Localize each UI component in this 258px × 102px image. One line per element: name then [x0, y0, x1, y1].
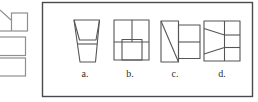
cup-inner-rim — [74, 20, 100, 40]
cup-outline — [74, 20, 100, 62]
figure-artwork — [0, 0, 258, 102]
upper-diagonal — [204, 29, 225, 36]
option-c-figure[interactable] — [161, 21, 200, 62]
square-outline — [204, 21, 240, 61]
option-a-figure[interactable] — [74, 20, 100, 62]
answer-box-border — [43, 3, 253, 97]
wide-rectangle-bottom — [0, 58, 26, 76]
lower-diagonal — [204, 48, 225, 55]
diagonal-line — [161, 21, 179, 62]
option-a-label[interactable]: a. — [77, 68, 93, 80]
small-square — [12, 13, 28, 31]
left-partial-figure-group — [0, 10, 28, 76]
option-b-label[interactable]: b. — [122, 68, 138, 80]
wide-rectangle-top — [0, 37, 26, 56]
option-d-label[interactable]: d. — [214, 68, 230, 80]
partial-polygon-top-edge — [0, 10, 11, 20]
option-c-label[interactable]: c. — [167, 68, 183, 80]
bottom-middle-rectangle — [122, 40, 142, 61]
option-b-figure[interactable] — [114, 20, 149, 60]
option-d-figure[interactable] — [204, 21, 240, 61]
scanned-question-figure: a. b. c. d. — [0, 0, 258, 102]
